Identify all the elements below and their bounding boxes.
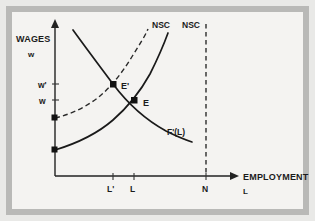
- nsc-shifted-label: NSC: [152, 20, 170, 30]
- y-axis-variable: w: [27, 50, 35, 59]
- labor-demand-label: F'(L): [167, 127, 185, 137]
- x-tick-label-l: L: [130, 184, 135, 194]
- x-axis-title: EMPLOYMENT: [243, 172, 309, 182]
- y-tick-label-w-prime: w': [37, 80, 47, 90]
- point-label-e: E: [143, 98, 149, 108]
- point-label-e-prime: E': [121, 81, 129, 91]
- labor-demand-curve: [73, 30, 192, 142]
- y-tick-label-w: w: [38, 96, 46, 106]
- figure-root: WAGES w EMPLOYMENT L w' w L' L N NSC NSC…: [0, 0, 315, 221]
- x-axis-variable: L: [243, 187, 248, 196]
- curves-group: [55, 24, 206, 176]
- dot-equilibrium-e-prime: [110, 81, 117, 88]
- x-tick-label-n: N: [202, 184, 208, 194]
- x-tick-label-l-prime: L': [107, 184, 114, 194]
- dot-nsc-original-origin: [52, 147, 58, 153]
- points-group: [52, 81, 138, 153]
- nsc-shifted-curve: [55, 29, 148, 118]
- nsc-original-curve: [55, 33, 168, 150]
- nsc-original-label: NSC: [182, 20, 200, 30]
- y-axis-arrow-icon: [51, 19, 59, 28]
- labor-market-diagram: WAGES w EMPLOYMENT L w' w L' L N NSC NSC…: [0, 0, 315, 221]
- dot-nsc-shifted-origin: [52, 115, 58, 121]
- y-axis-title: WAGES: [16, 34, 51, 44]
- dot-equilibrium-e: [131, 97, 138, 104]
- x-axis-arrow-icon: [230, 172, 239, 180]
